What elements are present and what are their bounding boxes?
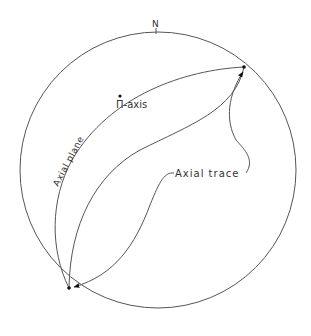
axial-trace-label: Axial trace	[175, 168, 239, 179]
axial-plane-label: Axial plane	[51, 134, 86, 188]
stereonet-diagram: N Π-axis Axial plane Axial trace	[0, 0, 311, 336]
pi-axis-dot	[118, 94, 121, 97]
axial-trace-upper	[229, 72, 249, 173]
intersection-dot-bottom	[67, 286, 71, 290]
north-label: N	[152, 19, 159, 29]
intersection-dot-top	[242, 65, 246, 69]
stereonet-svg: N Π-axis Axial plane Axial trace	[0, 0, 311, 336]
pi-axis-label: Π-axis	[116, 99, 147, 110]
axial-trace-lower	[74, 173, 174, 287]
